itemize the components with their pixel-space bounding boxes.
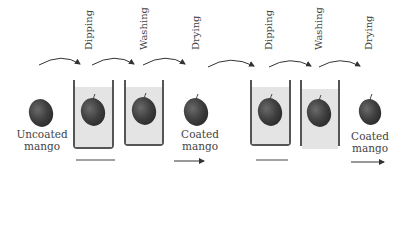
mango-dipping-2 [255,94,285,129]
caption-line-2: mango [12,140,72,152]
mango-washing-2 [304,95,334,130]
mango-uncoated [26,96,56,129]
caption-line-1: Coated [345,130,395,142]
caption-uncoated-mango: Uncoated mango [12,128,72,152]
mango-washing-1 [129,93,159,128]
mango-dipping-1 [78,94,108,129]
caption-line-1: Uncoated [12,128,72,140]
mango-drying-1 [181,94,211,129]
caption-line-2: mango [175,140,225,152]
mango-coated-2 [356,94,384,127]
caption-line-1: Coated [175,128,225,140]
caption-coated-mango-2: Coated mango [345,130,395,154]
caption-coated-mango-1: Coated mango [175,128,225,152]
caption-line-2: mango [345,142,395,154]
